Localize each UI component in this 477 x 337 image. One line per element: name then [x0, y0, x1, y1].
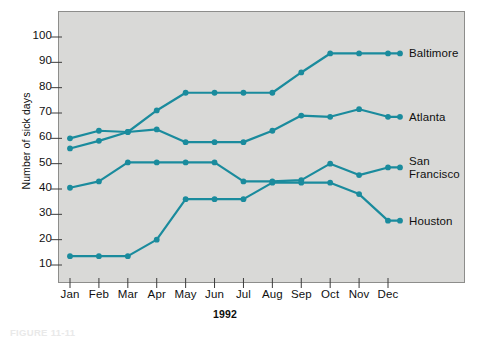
y-tick-label: 90: [22, 54, 52, 66]
x-tick-label: Dec: [368, 288, 408, 300]
figure-caption: FIGURE 11-11: [10, 327, 75, 337]
y-tick-label: 70: [22, 105, 52, 117]
y-tick-label: 100: [22, 29, 52, 41]
series-label-atlanta: Atlanta: [409, 111, 446, 124]
y-tick-label: 10: [22, 257, 52, 269]
figure-container: Number of sick days 10203040506070809010…: [0, 0, 477, 337]
series-label-baltimore: Baltimore: [409, 47, 458, 60]
y-tick-label: 50: [22, 156, 52, 168]
y-tick-label: 20: [22, 232, 52, 244]
x-axis-title: 1992: [213, 308, 237, 320]
y-tick-label: 40: [22, 181, 52, 193]
series-label-san-francisco: San Francisco: [409, 155, 460, 181]
plot-area: [58, 11, 465, 283]
y-tick-label: 80: [22, 80, 52, 92]
y-tick-label: 60: [22, 130, 52, 142]
y-tick-label: 30: [22, 206, 52, 218]
series-label-houston: Houston: [409, 215, 453, 228]
